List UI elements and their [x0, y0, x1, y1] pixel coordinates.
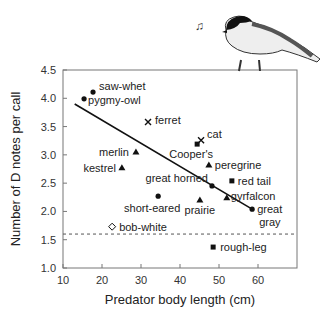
square-marker-icon: [195, 142, 200, 147]
circle-marker-icon: [250, 207, 255, 212]
diamond-marker-icon: [109, 223, 116, 230]
x-tick-label: 10: [57, 274, 69, 286]
y-tick-label: 2.5: [41, 177, 56, 189]
point-label: Cooper's: [169, 148, 213, 160]
data-point: peregrine: [205, 159, 261, 171]
x-marker-icon: [145, 119, 151, 125]
data-point: red tail: [229, 175, 271, 187]
data-point: rough-leg: [211, 241, 267, 253]
point-label: great horned: [146, 172, 208, 184]
data-point: merlin: [99, 146, 139, 158]
point-label: ferret: [155, 114, 181, 126]
circle-marker-icon: [156, 194, 161, 199]
y-tick-label: 1.0: [41, 262, 56, 274]
square-marker-icon: [211, 245, 216, 250]
data-point: short-eared: [124, 194, 180, 215]
point-label: gray: [259, 216, 281, 228]
data-point: Cooper's: [169, 142, 213, 161]
x-tick-label: 60: [252, 274, 264, 286]
point-label: bob-white: [119, 221, 167, 233]
data-point: great horned: [146, 172, 215, 189]
data-point: saw-whet: [90, 80, 145, 95]
x-tick-label: 50: [213, 274, 225, 286]
y-tick-label: 1.5: [41, 234, 56, 246]
data-point: cat: [198, 128, 222, 143]
y-axis-label: Number of D notes per call: [8, 92, 23, 247]
x-tick-label: 30: [135, 274, 147, 286]
point-label: pygmy-owl: [88, 94, 141, 106]
data-point: pygmy-owl: [81, 94, 140, 106]
point-label: rough-leg: [220, 241, 266, 253]
point-label: saw-whet: [99, 80, 145, 92]
point-label: great: [257, 203, 282, 215]
point-label: cat: [207, 128, 222, 140]
y-tick-label: 2.0: [41, 205, 56, 217]
point-label: merlin: [99, 146, 129, 158]
point-label: gyrfalcon: [231, 190, 276, 202]
point-label: prairie: [185, 204, 216, 216]
y-tick-label: 3.5: [41, 121, 56, 133]
point-label: short-eared: [124, 202, 180, 214]
triangle-marker-icon: [132, 149, 139, 155]
x-tick-label: 40: [174, 274, 186, 286]
y-tick-label: 4.5: [41, 64, 56, 76]
triangle-marker-icon: [118, 164, 125, 170]
point-label: red tail: [238, 175, 271, 187]
y-tick-label: 4.0: [41, 92, 56, 104]
data-point: prairie: [185, 197, 216, 217]
x-tick-label: 20: [96, 274, 108, 286]
triangle-marker-icon: [196, 197, 203, 203]
triangle-marker-icon: [205, 162, 212, 168]
y-tick-label: 3.0: [41, 149, 56, 161]
scatter-chart: 1.01.52.02.53.03.54.04.5 102030405060 sa…: [0, 0, 325, 322]
square-marker-icon: [229, 178, 234, 183]
point-label: kestrel: [83, 162, 115, 174]
point-label: peregrine: [215, 159, 261, 171]
x-axis-label: Predator body length (cm): [105, 292, 255, 307]
circle-marker-icon: [81, 96, 86, 101]
data-point: bob-white: [109, 221, 167, 233]
music-note-icon: ♫: [195, 19, 204, 33]
data-point: gyrfalcon: [223, 190, 275, 202]
chickadee-illustration: ♫: [195, 16, 320, 71]
data-point: ferret: [145, 114, 181, 126]
x-axis: 102030405060: [57, 264, 264, 286]
data-point: kestrel: [83, 162, 125, 174]
circle-marker-icon: [209, 183, 214, 188]
data-point: greatgray: [250, 203, 283, 228]
